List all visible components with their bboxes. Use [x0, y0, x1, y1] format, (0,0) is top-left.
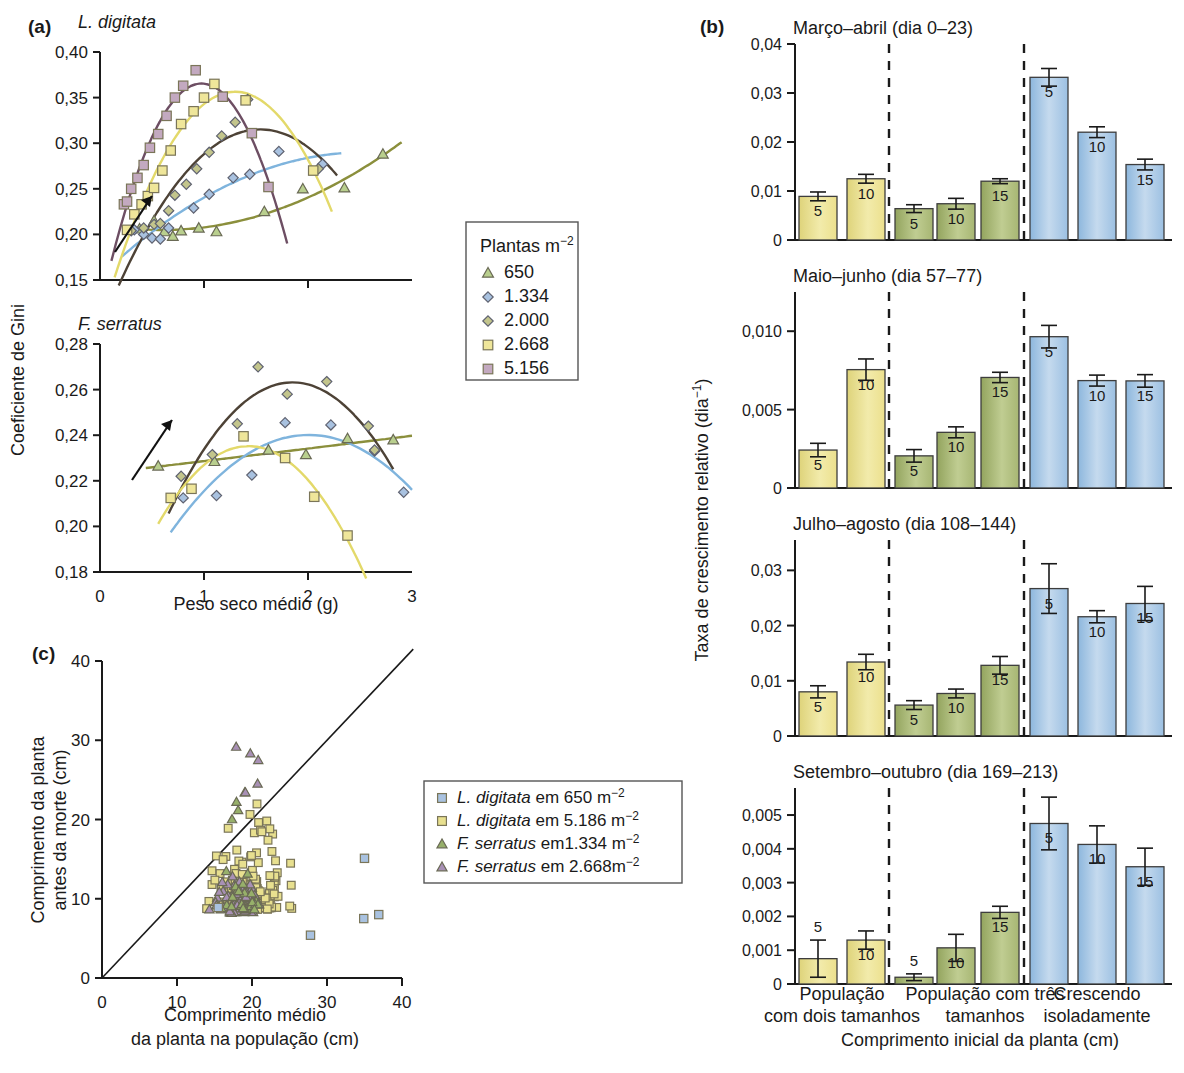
legend-label: F. serratus em1.334 m−2: [457, 832, 640, 853]
y-tick-label: 0: [773, 480, 782, 497]
y-tick-label: 0,35: [55, 89, 88, 108]
data-point-5.156: [122, 197, 131, 206]
scatter-point-ldigitata-5186: [264, 836, 272, 844]
scatter-point-ldigitata-5186: [246, 811, 254, 819]
bar-value-label: 5: [910, 711, 918, 728]
scatter-point-ldigitata-5186: [287, 881, 295, 889]
scatter-point-ldigitata-5186: [253, 800, 261, 808]
bar-value-label: 10: [1089, 138, 1106, 155]
legend-label: 5.156: [504, 358, 549, 378]
data-point-2.000: [253, 362, 263, 372]
scatter-point-ldigitata-5186: [270, 890, 278, 898]
bar-value-label: 5: [1045, 343, 1053, 360]
data-point-5.156: [179, 81, 188, 90]
x-tick-label: 0: [97, 993, 106, 1012]
panel-a: (a) L. digitata F. serratus Coeficiente …: [8, 12, 578, 614]
data-point-1.334: [274, 146, 284, 156]
y-tick-label: 30: [71, 731, 90, 750]
panel-c-plot: 010203040010203040: [71, 649, 413, 1012]
scatter-point-ldigitata-5186: [267, 881, 275, 889]
panel-c: (c) Comprimento da planta antes da morte…: [28, 643, 682, 1049]
data-point-650: [342, 433, 353, 442]
data-point-2.668: [166, 493, 175, 502]
y-tick-label: 0,25: [55, 180, 88, 199]
bar-value-label: 10: [858, 185, 875, 202]
x-tick-label: 30: [318, 993, 337, 1012]
bar-value-label: 5: [910, 462, 918, 479]
data-point-1.334: [211, 491, 221, 501]
y-tick-label: 0,40: [55, 43, 88, 62]
scatter-point-fserratus-1334: [227, 815, 236, 823]
bar-value-label: 5: [814, 918, 822, 935]
panel-a-xlabel: Peso seco médio (g): [173, 594, 338, 614]
panel-b-letter: (b): [700, 16, 724, 37]
data-point-1.334: [326, 420, 336, 430]
bar-value-label: 10: [948, 954, 965, 971]
y-tick-label: 0: [773, 728, 782, 745]
y-tick-label: 0,18: [55, 563, 88, 582]
scatter-point-ldigitata-5186: [248, 852, 256, 860]
legend-label: 2.000: [504, 310, 549, 330]
bar-value-label: 15: [1137, 873, 1154, 890]
scatter-point-ldigitata-650: [306, 931, 314, 939]
y-tick-label: 0,30: [55, 134, 88, 153]
data-point-5.156: [127, 184, 136, 193]
panel-a-letter: (a): [28, 16, 51, 37]
data-point-2.000: [363, 421, 373, 431]
panel-a-bottom-title: F. serratus: [78, 314, 162, 334]
group-label-line2: isoladamente: [1043, 1006, 1150, 1026]
subplot-title: Março–abril (dia 0–23): [793, 18, 973, 38]
fit-curve-2.668: [115, 92, 332, 278]
data-point-2.668: [187, 484, 196, 493]
group-label-line2: tamanhos: [945, 1006, 1024, 1026]
bar-value-label: 5: [814, 698, 822, 715]
y-tick-label: 0,26: [55, 381, 88, 400]
scatter-point-fserratus-2668: [246, 749, 255, 757]
data-point-2.668: [199, 93, 208, 102]
x-tick-label: 40: [393, 993, 412, 1012]
data-point-650: [301, 449, 312, 458]
panel-a-legend: Plantas m−26501.3342.0002.6685.156: [466, 222, 578, 380]
legend-marker-5.156: [483, 364, 493, 374]
y-tick-label: 20: [71, 811, 90, 830]
panel-c-ylabel-line2: antes da morte (cm): [50, 749, 70, 910]
data-point-2.000: [181, 179, 191, 189]
group-label-line1: População: [799, 984, 884, 1004]
panel-b-xlabel: Comprimento inicial da planta (cm): [841, 1030, 1119, 1050]
bar-value-label: 15: [1137, 387, 1154, 404]
bar-value-label: 15: [992, 383, 1009, 400]
y-tick-label: 0,002: [742, 908, 782, 925]
data-point-2.000: [322, 377, 332, 387]
scatter-point-ldigitata-5186: [219, 856, 227, 864]
legend-marker-0: [438, 794, 447, 803]
data-point-5.156: [191, 66, 200, 75]
bar-value-label: 10: [948, 699, 965, 716]
bar-value-label: 5: [910, 952, 918, 969]
scatter-point-ldigitata-650: [214, 903, 222, 911]
x-tick-label: 20: [243, 993, 262, 1012]
data-point-1.334: [178, 493, 188, 503]
data-point-2.000: [230, 117, 240, 127]
fit-curve-2.668: [158, 446, 366, 578]
legend-marker-1: [438, 817, 447, 826]
subplot-title: Maio–junho (dia 57–77): [793, 266, 982, 286]
panel-c-letter: (c): [32, 643, 55, 664]
bar-value-label: 10: [948, 210, 965, 227]
y-tick-label: 0,02: [751, 134, 782, 151]
trend-arrow: [132, 420, 172, 480]
data-point-2.668: [241, 96, 250, 105]
y-tick-label: 0: [773, 232, 782, 249]
data-point-5.156: [145, 143, 154, 152]
y-tick-label: 0,22: [55, 472, 88, 491]
x-tick-label: 1: [199, 587, 208, 606]
scatter-point-ldigitata-5186: [211, 876, 219, 884]
y-tick-label: 0,004: [742, 841, 782, 858]
data-point-650: [339, 183, 350, 192]
data-point-2.000: [282, 389, 292, 399]
legend-label: 1.334: [504, 286, 549, 306]
bar-value-label: 10: [948, 438, 965, 455]
group-label-line1: População com três: [905, 984, 1064, 1004]
bar-value-label: 5: [814, 456, 822, 473]
y-tick-label: 0,03: [751, 85, 782, 102]
figure-svg: (a) L. digitata F. serratus Coeficiente …: [0, 0, 1184, 1073]
